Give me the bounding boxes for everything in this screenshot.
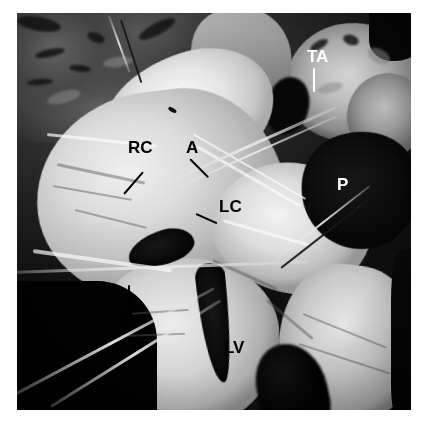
leader-line-ta [313, 68, 315, 92]
leader-line-p-lower [128, 285, 130, 309]
label-a: A [186, 139, 198, 156]
label-p-lower: P [122, 310, 133, 327]
label-rc: RC [128, 139, 153, 156]
figure-root: RC A LC TA P P LV [0, 0, 421, 428]
lower-left-shadow [17, 281, 157, 410]
label-lc: LC [219, 198, 242, 215]
label-ta: TA [307, 48, 328, 65]
label-lv: LV [224, 339, 244, 356]
label-p-right: P [337, 176, 348, 193]
far-right-shadow [391, 249, 411, 410]
dissection-photograph: RC A LC TA P P LV [17, 13, 411, 410]
